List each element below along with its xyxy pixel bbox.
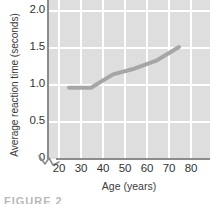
x-axis-tick-labels: 20 30 40 50 60 70 80 bbox=[0, 162, 210, 178]
y-tick-label: 2.0 bbox=[19, 3, 45, 15]
y-tick-label: 0.5 bbox=[19, 114, 45, 126]
series-line-average-reaction-time bbox=[69, 47, 179, 88]
plot-area bbox=[48, 0, 210, 159]
data-line-svg bbox=[48, 0, 210, 159]
y-axis-line bbox=[47, 0, 49, 159]
x-tick-label: 20 bbox=[47, 162, 71, 174]
x-tick-label: 50 bbox=[113, 162, 137, 174]
x-axis-line bbox=[56, 158, 210, 160]
x-tick-label: 70 bbox=[157, 162, 181, 174]
figure-caption-fragment: FIGURE 2 bbox=[4, 196, 124, 204]
x-tick-label: 60 bbox=[135, 162, 159, 174]
y-tick-label: 1.5 bbox=[19, 40, 45, 52]
x-tick-label: 80 bbox=[179, 162, 203, 174]
x-tick-label: 40 bbox=[91, 162, 115, 174]
y-tick-label: 1.0 bbox=[19, 77, 45, 89]
figure-container: Average reaction time (seconds) 2.0 1.5 … bbox=[0, 0, 210, 204]
x-tick-label: 30 bbox=[69, 162, 93, 174]
x-axis-title: Age (years) bbox=[48, 180, 210, 192]
